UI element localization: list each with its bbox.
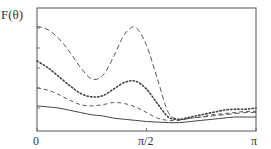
curve-long-dash (37, 26, 256, 119)
y-axis-label: F(θ) (1, 8, 23, 21)
x-tick-label-pi-half: π/2 (138, 135, 153, 147)
x-tick-label-pi: π (251, 135, 257, 147)
curve-short-dash (37, 88, 256, 121)
curve-solid (37, 106, 256, 123)
chart-canvas (0, 0, 271, 149)
data-curves (37, 26, 256, 122)
x-tick-label-0: 0 (33, 135, 39, 147)
